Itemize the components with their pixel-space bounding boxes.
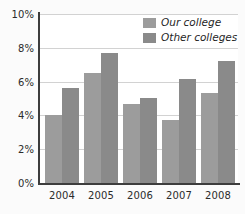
legend-label-our-college: Our college xyxy=(161,17,221,28)
bar-our-college-2007 xyxy=(162,120,179,183)
y-tick-label-8: 8% xyxy=(0,42,34,53)
y-tick-label-0: 0% xyxy=(0,178,34,189)
legend-entry-other-colleges: Other colleges xyxy=(143,31,237,44)
bar-other-colleges-2005 xyxy=(101,53,118,183)
bar-group xyxy=(84,14,118,183)
y-tick-label-10: 10% xyxy=(0,9,34,20)
legend-label-other-colleges: Other colleges xyxy=(161,32,237,43)
bar-our-college-2006 xyxy=(123,104,140,183)
x-tick-label-2008: 2008 xyxy=(192,190,244,201)
legend-swatch-icon xyxy=(143,33,156,43)
bar-our-college-2004 xyxy=(45,115,62,183)
bar-our-college-2008 xyxy=(201,93,218,183)
grouped-bar-chart: 10% 8% 6% 4% 2% 0% 2004 2005 2006 2007 2… xyxy=(0,0,245,214)
bar-other-colleges-2008 xyxy=(218,61,235,183)
x-axis-line xyxy=(38,183,240,185)
bar-other-colleges-2007 xyxy=(179,79,196,183)
bar-our-college-2005 xyxy=(84,73,101,183)
bar-other-colleges-2006 xyxy=(140,98,157,183)
bar-group xyxy=(45,14,79,183)
y-tick-label-6: 6% xyxy=(0,76,34,87)
y-tick-label-4: 4% xyxy=(0,110,34,121)
legend-entry-our-college: Our college xyxy=(143,16,237,29)
bar-other-colleges-2004 xyxy=(62,88,79,183)
y-tick-label-2: 2% xyxy=(0,144,34,155)
chart-legend: Our college Other colleges xyxy=(143,16,237,44)
y-axis-line xyxy=(38,12,40,185)
legend-swatch-icon xyxy=(143,18,156,28)
